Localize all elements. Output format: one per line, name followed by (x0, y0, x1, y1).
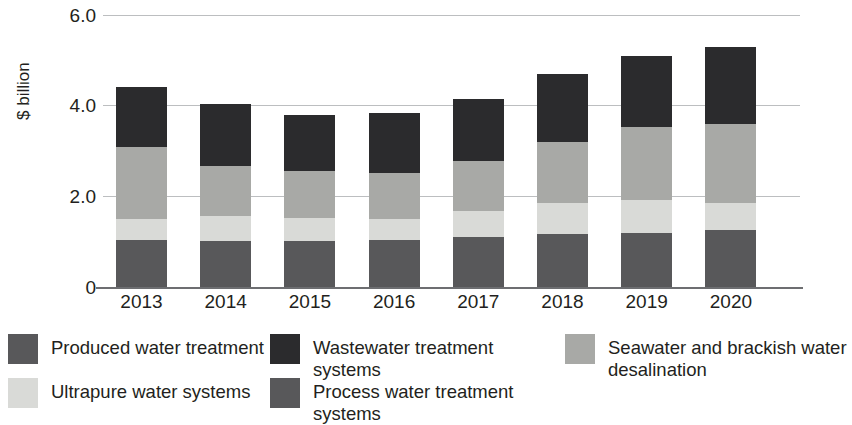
legend-item-wastewater-treatment-systems[interactable]: Wastewater treatment systems (270, 334, 560, 381)
bar-segment[interactable] (621, 127, 672, 200)
bar-segment[interactable] (369, 219, 420, 240)
bar-segment[interactable] (453, 161, 504, 212)
legend-label: Wastewater treatment systems (313, 334, 560, 381)
bar-2013[interactable] (116, 87, 167, 287)
legend-swatch-icon (270, 378, 300, 408)
bar-segment[interactable] (200, 104, 251, 167)
chart-legend: Produced water treatment Wastewater trea… (0, 332, 852, 425)
bar-segment[interactable] (200, 216, 251, 241)
bar-segment[interactable] (369, 113, 420, 172)
legend-swatch-icon (270, 334, 300, 364)
bar-segment[interactable] (621, 56, 672, 128)
bar-segment[interactable] (116, 147, 167, 219)
plot-area: $ billion 6.0 4.0 2.0 0 2013201420152016… (0, 0, 852, 300)
legend-label: Seawater and brackish water desalination (608, 334, 850, 381)
x-tick-2018: 2018 (523, 291, 603, 313)
x-tick-2019: 2019 (607, 291, 687, 313)
bar-segment[interactable] (369, 240, 420, 287)
bar-segment[interactable] (453, 99, 504, 161)
x-tick-2013: 2013 (102, 291, 182, 313)
bar-segment[interactable] (621, 233, 672, 287)
x-tick-2020: 2020 (691, 291, 771, 313)
bar-2019[interactable] (621, 56, 672, 288)
bar-segment[interactable] (369, 173, 420, 220)
bar-2018[interactable] (537, 74, 588, 287)
bar-segment[interactable] (705, 230, 756, 287)
bar-2016[interactable] (369, 113, 420, 287)
bar-2015[interactable] (284, 115, 335, 287)
bar-segment[interactable] (453, 237, 504, 287)
legend-item-seawater-and-brackish-water-desalination[interactable]: Seawater and brackish water desalination (565, 334, 850, 381)
bar-segment[interactable] (705, 124, 756, 203)
legend-swatch-icon (8, 334, 38, 364)
bar-2017[interactable] (453, 99, 504, 287)
bar-segment[interactable] (621, 200, 672, 233)
bar-segment[interactable] (200, 166, 251, 216)
bar-segment[interactable] (284, 115, 335, 171)
legend-item-process-water-treatment-systems[interactable]: Process water treatment systems (270, 378, 560, 425)
legend-label: Ultrapure water systems (51, 378, 250, 403)
bar-segment[interactable] (284, 241, 335, 287)
x-tick-2014: 2014 (186, 291, 266, 313)
x-tick-2017: 2017 (438, 291, 518, 313)
bar-segment[interactable] (537, 74, 588, 142)
chart-container: $ billion 6.0 4.0 2.0 0 2013201420152016… (0, 0, 852, 425)
bar-segment[interactable] (116, 219, 167, 241)
x-tick-2015: 2015 (270, 291, 350, 313)
legend-swatch-icon (8, 378, 38, 408)
bar-segment[interactable] (537, 142, 588, 204)
bar-2014[interactable] (200, 104, 251, 287)
legend-label: Produced water treatment (51, 334, 264, 359)
bar-segment[interactable] (537, 234, 588, 287)
bar-segment[interactable] (537, 203, 588, 234)
legend-item-ultrapure-water-systems[interactable]: Ultrapure water systems (8, 378, 270, 408)
bar-segment[interactable] (116, 87, 167, 147)
bar-segment[interactable] (284, 171, 335, 218)
bar-2020[interactable] (705, 47, 756, 287)
legend-swatch-icon (565, 334, 595, 364)
bar-segment[interactable] (200, 241, 251, 287)
bar-segment[interactable] (453, 211, 504, 237)
x-tick-2016: 2016 (354, 291, 434, 313)
bar-segment[interactable] (116, 240, 167, 287)
bar-segment[interactable] (705, 203, 756, 230)
legend-item-produced-water-treatment[interactable]: Produced water treatment (8, 334, 270, 364)
bar-group (0, 0, 852, 300)
legend-label: Process water treatment systems (313, 378, 560, 425)
bar-segment[interactable] (705, 47, 756, 124)
bar-segment[interactable] (284, 218, 335, 241)
